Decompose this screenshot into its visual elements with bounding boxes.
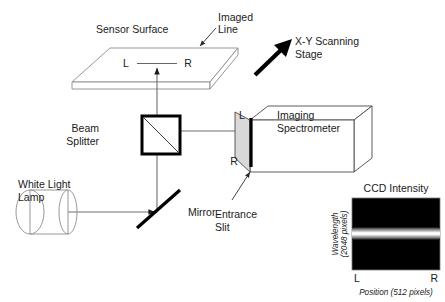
ccd-y-axis-label-line2: (2048 pixels) — [340, 210, 349, 257]
imaging-spectrometer-label-line2: Spectrometer — [277, 122, 341, 134]
white-light-lamp-label-line2: Lamp — [18, 191, 44, 203]
optical-diagram-figure: L R — [0, 0, 445, 302]
sensor-surface-top-face — [72, 48, 238, 82]
ccd-left-tick: L — [354, 272, 360, 284]
mirror-surface — [137, 190, 180, 228]
ccd-y-axis-label-line1: Wavelength — [331, 212, 340, 256]
xy-stage-label-line2: Stage — [295, 48, 323, 60]
diagram-canvas: L R — [0, 0, 445, 302]
imaged-line-label-line2: Line — [218, 23, 238, 35]
xy-stage-label-line1: X-Y Scanning — [295, 35, 359, 47]
sensor-right-marker: R — [184, 57, 192, 69]
ccd-right-tick: R — [430, 272, 438, 284]
beam-splitter — [142, 116, 180, 154]
sensor-surface-label: Sensor Surface — [96, 23, 169, 35]
entrance-slit-label-line1: Entrance — [215, 208, 257, 220]
mirror-label: Mirror — [188, 206, 216, 218]
slit-top-marker: L — [239, 109, 245, 121]
stage-arrow-shaft — [255, 48, 283, 75]
entrance-slit-leader — [232, 172, 250, 200]
ccd-spectral-band — [352, 227, 440, 240]
sensor-surface-front-edge — [72, 82, 210, 89]
beam-splitter-label-line1: Beam — [72, 122, 100, 134]
imaged-line-leader — [200, 28, 216, 46]
ccd-x-axis-label: Position (512 pixels) — [359, 288, 433, 297]
sensor-left-marker: L — [123, 57, 129, 69]
imaged-line-label-line1: Imaged — [218, 11, 253, 23]
xy-scanning-stage-arrow — [255, 39, 292, 75]
slit-bottom-marker: R — [230, 155, 238, 167]
ccd-intensity-title: CCD Intensity — [364, 182, 430, 194]
beam-splitter-label-line2: Splitter — [66, 135, 99, 147]
imaging-spectrometer-label-line1: Imaging — [277, 109, 315, 121]
entrance-slit-label-line2: Slit — [215, 221, 230, 233]
sensor-surface — [72, 48, 238, 89]
ccd-intensity-readout: CCD Intensity L R Position (512 pixels) … — [331, 182, 440, 297]
white-light-lamp-label-line1: White Light — [18, 178, 71, 190]
